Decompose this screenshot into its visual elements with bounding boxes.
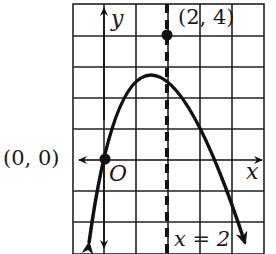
y-axis-label: y <box>110 6 124 31</box>
symmetry-label: x = 2 <box>174 227 230 251</box>
vertex-label: (2, 4) <box>178 5 234 29</box>
vertex-point <box>162 30 173 41</box>
x-axis-label: x <box>246 159 259 184</box>
origin-label: O <box>109 161 127 186</box>
origin-point-label: (0, 0) <box>3 146 59 170</box>
parabola-graph: y x O (2, 4) (0, 0) x = 2 <box>0 0 276 254</box>
